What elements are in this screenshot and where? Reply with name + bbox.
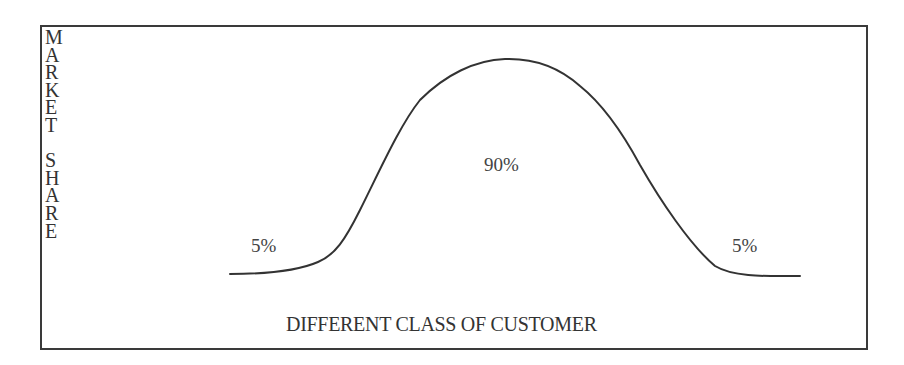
bell-curve: [0, 0, 904, 365]
x-axis-label: DIFFERENT CLASS OF CUSTOMER: [286, 313, 597, 336]
center-share-label: 90%: [484, 154, 519, 176]
left-tail-share-label: 5%: [251, 235, 276, 257]
right-tail-share-label: 5%: [732, 235, 757, 257]
